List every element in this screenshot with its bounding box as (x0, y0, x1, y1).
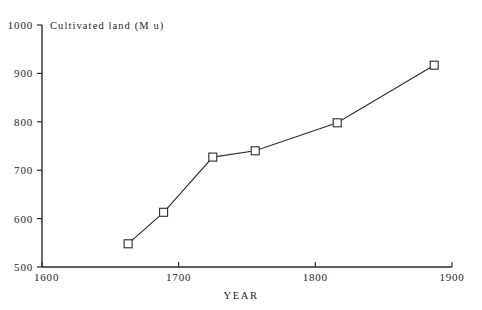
y-axis-tick-label: 1000 (8, 19, 33, 31)
y-axis-tick-label: 700 (14, 164, 33, 176)
chart-title: Cultivated land (M u) (50, 20, 164, 32)
data-point-marker (124, 240, 132, 248)
x-axis-tick-label: 1800 (303, 271, 328, 283)
chart-background (0, 0, 482, 310)
y-axis-tick-label: 500 (14, 261, 33, 273)
y-axis-tick-label: 600 (14, 213, 33, 225)
data-point-marker (430, 61, 438, 69)
y-axis-tick-label: 800 (14, 116, 33, 128)
data-point-marker (333, 119, 341, 127)
x-axis-title: YEAR (224, 290, 259, 301)
chart-canvas: 5006007008009001000 1600170018001900 Cul… (0, 0, 482, 310)
x-axis-tick-label: 1600 (34, 271, 59, 283)
x-axis-tick-label: 1900 (439, 271, 464, 283)
x-axis-tick-label: 1700 (166, 271, 191, 283)
data-point-marker (160, 208, 168, 216)
y-axis-tick-label: 900 (14, 67, 33, 79)
data-point-marker (251, 147, 259, 155)
line-chart: 5006007008009001000 1600170018001900 Cul… (0, 0, 482, 310)
data-point-marker (209, 153, 217, 161)
